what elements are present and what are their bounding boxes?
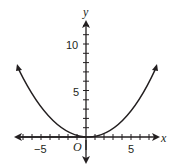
- parabola-graph: [0, 0, 175, 168]
- x-axis-label: x: [161, 132, 166, 144]
- origin-label: O: [73, 141, 82, 153]
- y-axis-label: y: [83, 6, 88, 18]
- y-tick-label-10: 10: [66, 40, 78, 51]
- x-tick-label-neg5: −5: [34, 144, 47, 155]
- parabola-curve: [19, 70, 155, 137]
- x-tick-label-5: 5: [128, 144, 134, 155]
- y-tick-label-5: 5: [73, 87, 79, 98]
